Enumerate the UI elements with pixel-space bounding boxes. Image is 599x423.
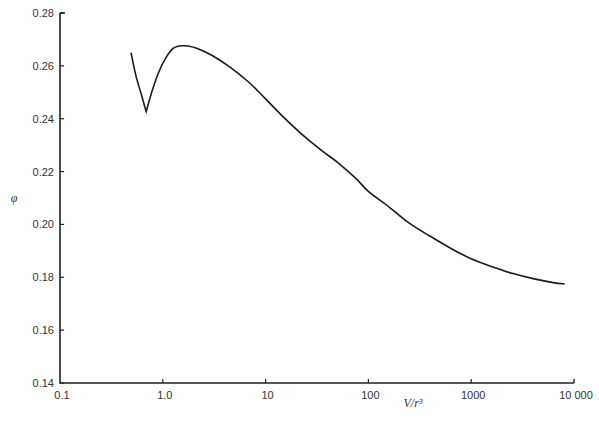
axis-lines (60, 13, 574, 383)
x-tick-label: 100 (361, 389, 379, 401)
y-tick-label: 0.26 (33, 60, 54, 72)
plot-area (131, 46, 565, 284)
chart-canvas: 0.11.010100100010 000 0.140.160.180.200.… (0, 0, 599, 423)
y-tick-label: 0.18 (33, 271, 54, 283)
y-tick-label: 0.20 (33, 218, 54, 230)
x-tick-label: 1000 (461, 389, 485, 401)
y-tick-label: 0.16 (33, 324, 54, 336)
y-tick-label: 0.24 (33, 113, 54, 125)
y-tick-label: 0.14 (33, 377, 54, 389)
x-tick-label: 1.0 (157, 389, 172, 401)
x-tick-label: 10 000 (559, 389, 593, 401)
y-tick-label: 0.22 (33, 166, 54, 178)
y-tick-label: 0.28 (33, 7, 54, 19)
y-axis-label: φ (11, 191, 18, 205)
data-line-phi (131, 46, 565, 284)
x-axis-label: V/r³ (404, 396, 423, 410)
x-tick-label: 10 (261, 389, 273, 401)
x-tick-label: 0.1 (54, 389, 69, 401)
axes (60, 13, 574, 383)
